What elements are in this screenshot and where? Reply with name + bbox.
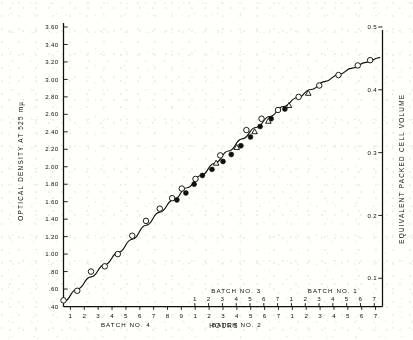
x-tick-label-lower: 7 [374, 312, 378, 319]
data-point-open-circle [179, 186, 185, 192]
x-tick-label-lower: 4 [235, 312, 239, 319]
x-tick-label-lower: 3 [96, 312, 100, 319]
x-tick-label-upper: 1 [290, 295, 294, 302]
y-tick-label-left: 2.20 [45, 145, 59, 152]
y-tick-label-left: 2.60 [45, 110, 59, 117]
data-point-open-circle [259, 116, 265, 122]
y-tick-label-right: 0.2 [368, 212, 378, 219]
y-tick-label-left: 3.00 [45, 76, 59, 83]
x-tick-label-lower: 4 [332, 312, 336, 319]
x-tick-label-lower: 2 [82, 312, 86, 319]
y-tick-label-right: 0.5 [368, 23, 378, 30]
y-tick-label-left: 1.60 [45, 198, 59, 205]
data-point-filled-circle [192, 182, 197, 187]
x-tick-label-lower: 3 [221, 312, 225, 319]
x-tick-label-upper: 6 [262, 295, 266, 302]
y-tick-label-right: 0.3 [368, 149, 378, 156]
x-tick-label-upper: 4 [331, 295, 335, 302]
x-tick-label-lower: 9 [180, 312, 184, 319]
x-tick-label-lower: 6 [138, 312, 142, 319]
data-point-filled-circle [238, 143, 243, 148]
data-point-filled-circle [248, 135, 253, 140]
x-axis-label: HOURS [209, 322, 239, 329]
growth-curve-plot: 3.603.403.203.002.802.602.402.202.001.80… [0, 0, 413, 340]
y-tick-label-right: 0.1 [368, 274, 378, 281]
x-tick-label-lower: 2 [207, 312, 211, 319]
data-point-triangle [213, 160, 219, 165]
x-tick-label-lower: 5 [346, 312, 350, 319]
data-point-open-circle [75, 288, 81, 294]
x-tick-label-upper: 3 [317, 295, 321, 302]
data-point-open-circle [317, 83, 323, 89]
chart-figure: 3.603.403.203.002.802.602.402.202.001.80… [0, 0, 413, 340]
data-point-open-circle [61, 298, 67, 304]
data-point-open-circle [296, 94, 302, 100]
data-point-open-circle [169, 195, 175, 201]
x-tick-label-upper: 1 [193, 295, 197, 302]
x-tick-label-lower: 1 [291, 312, 295, 319]
data-point-filled-circle [174, 197, 179, 202]
x-tick-label-lower: 1 [69, 312, 73, 319]
x-tick-label-lower: 3 [318, 312, 322, 319]
data-point-open-circle [367, 57, 373, 63]
data-point-open-circle [102, 264, 108, 270]
data-point-open-circle [336, 72, 342, 78]
x-tick-label-upper: 5 [248, 295, 252, 302]
y-tick-label-left: 3.20 [45, 58, 59, 65]
data-point-open-circle [218, 153, 224, 159]
data-point-open-circle [355, 63, 361, 69]
y-tick-label-left: 2.00 [45, 163, 59, 170]
batch-label-upper: BATCH NO. 3 [211, 287, 261, 294]
y-tick-label-left: 3.40 [45, 41, 59, 48]
x-tick-label-lower: 6 [263, 312, 267, 319]
data-point-filled-circle [183, 191, 188, 196]
data-point-filled-circle [229, 152, 234, 157]
data-point-open-circle [193, 176, 199, 182]
x-tick-label-upper: 3 [221, 295, 225, 302]
x-tick-label-lower: 1 [193, 312, 197, 319]
data-point-open-circle [130, 233, 136, 239]
y-tick-label-left: 3.60 [45, 23, 59, 30]
y-tick-label-left: 2.40 [45, 128, 59, 135]
x-tick-label-upper: 5 [345, 295, 349, 302]
y-tick-label-left: .80 [49, 268, 59, 275]
x-tick-label-upper: 4 [234, 295, 238, 302]
data-point-open-circle [143, 218, 149, 224]
x-tick-label-lower: 2 [304, 312, 308, 319]
x-tick-label-upper: 7 [276, 295, 280, 302]
y-tick-label-left: 1.00 [45, 250, 59, 257]
y-tick-label-left: .40 [49, 303, 59, 310]
y-tick-label-left: 2.80 [45, 93, 59, 100]
data-point-filled-circle [200, 173, 205, 178]
data-point-open-circle [275, 107, 281, 113]
data-point-filled-circle [258, 124, 263, 129]
y-tick-label-left: 1.40 [45, 215, 59, 222]
data-point-open-circle [244, 127, 250, 133]
x-tick-label-lower: 5 [249, 312, 253, 319]
data-point-open-circle [88, 269, 94, 275]
x-tick-label-upper: 2 [207, 295, 211, 302]
y-tick-label-left: 1.20 [45, 233, 59, 240]
data-point-open-circle [157, 206, 163, 212]
x-tick-label-lower: 8 [166, 312, 170, 319]
x-tick-label-lower: 7 [277, 312, 281, 319]
y-axis-label-right: EQUIVALENT PACKED CELL VOLUME [398, 94, 406, 244]
x-tick-label-upper: 7 [372, 295, 376, 302]
x-tick-label-lower: 5 [124, 312, 128, 319]
x-tick-label-lower: 6 [360, 312, 364, 319]
x-tick-label-upper: 6 [359, 295, 363, 302]
growth-curve-line [64, 58, 380, 302]
data-point-filled-circle [210, 167, 215, 172]
x-tick-label-lower: 4 [110, 312, 114, 319]
batch-label-lower: BATCH NO. 4 [101, 321, 151, 328]
y-tick-label-right: 0.4 [368, 86, 378, 93]
x-tick-label-upper: 2 [303, 295, 307, 302]
batch-label-upper: BATCH NO. 1 [308, 287, 358, 294]
y-tick-label-left: 1.80 [45, 180, 59, 187]
data-point-open-circle [115, 251, 121, 257]
x-tick-label-lower: 7 [152, 312, 156, 319]
data-point-filled-circle [221, 159, 226, 164]
y-tick-label-left: .60 [49, 285, 59, 292]
y-axis-label-left: OPTICAL DENSITY AT 525 mµ [17, 101, 25, 221]
